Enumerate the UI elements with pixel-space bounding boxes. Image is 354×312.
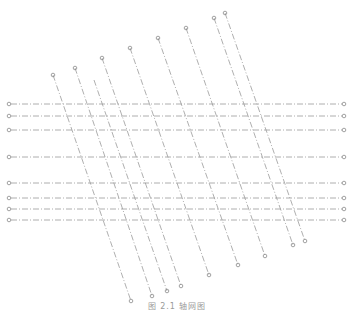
- axis-bubble-icon: [342, 196, 346, 200]
- axis-grid-diagram: [0, 0, 354, 312]
- axis-bubble-icon: [342, 114, 346, 118]
- horizontal-axis-8: [7, 218, 346, 222]
- horizontal-axis-6: [7, 196, 346, 200]
- diagonal-axis-5: [128, 46, 211, 277]
- diagonal-axis-2: [73, 66, 154, 298]
- axis-bubble-icon: [7, 114, 11, 118]
- axis-bubble-icon: [342, 155, 346, 159]
- diagonal-axis-1: [51, 73, 133, 303]
- diagonal-axis-9: [223, 11, 307, 243]
- diagonal-axis-7: [184, 26, 267, 258]
- axis-bubble-icon: [7, 218, 11, 222]
- horizontal-axis-lines: [7, 102, 346, 222]
- figure-caption: 图 2.1 轴网图: [0, 302, 354, 312]
- axis-bubble-icon: [342, 218, 346, 222]
- horizontal-axis-7: [7, 207, 346, 211]
- axis-bubble-icon: [342, 102, 346, 106]
- axis-bubble-icon: [7, 128, 11, 132]
- axis-bubble-icon: [342, 128, 346, 132]
- diagonal-axis-6: [156, 36, 240, 267]
- diagonal-axis-8: [212, 16, 295, 247]
- horizontal-axis-5: [7, 181, 346, 185]
- diagonal-axis-4: [100, 56, 183, 288]
- axis-bubble-icon: [7, 102, 11, 106]
- axis-bubble-icon: [7, 207, 11, 211]
- axis-bubble-icon: [342, 181, 346, 185]
- axis-bubble-icon: [342, 207, 346, 211]
- axis-bubble-icon: [7, 196, 11, 200]
- axis-bubble-icon: [7, 181, 11, 185]
- diagonal-axis-3: [94, 80, 169, 293]
- horizontal-axis-2: [7, 114, 346, 118]
- axis-bubble-icon: [7, 155, 11, 159]
- horizontal-axis-3: [7, 128, 346, 132]
- horizontal-axis-4: [7, 155, 346, 159]
- horizontal-axis-1: [7, 102, 346, 106]
